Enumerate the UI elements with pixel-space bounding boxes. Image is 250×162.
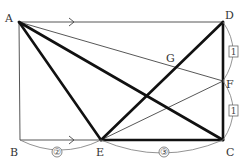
segment-AB [19, 22, 20, 140]
ratio-BE-badge: ② [52, 147, 62, 157]
ratio-FC-badge: 1 [229, 105, 238, 116]
ratio-BE-text: ② [53, 147, 61, 157]
point-label-E: E [96, 146, 104, 159]
ratio-EC-badge: ③ [159, 147, 169, 157]
ratio-DF-badge: 1 [229, 46, 238, 57]
point-label-B: B [10, 146, 18, 159]
ratio-EC-text: ③ [160, 147, 168, 157]
ratio-FC-text: 1 [231, 106, 237, 116]
point-label-G: G [166, 52, 175, 65]
point-label-D: D [225, 9, 234, 22]
geometry-diagram: ② ③ 1 1 A B C D E F G [0, 0, 250, 162]
point-label-C: C [226, 146, 234, 159]
segment-EF [101, 81, 223, 140]
segment-AE [19, 22, 101, 140]
point-label-F: F [226, 78, 234, 91]
ratio-DF-text: 1 [231, 47, 237, 57]
point-label-A: A [4, 12, 14, 25]
